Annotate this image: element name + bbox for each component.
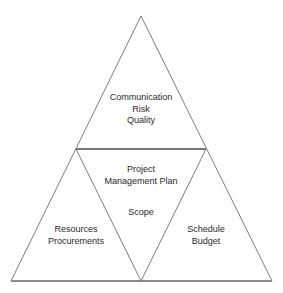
center-triangle-upper-label-line-2: Management Plan [104,176,177,188]
top-triangle-label-line-1: Communication [110,92,173,104]
right-triangle-label: Schedule Budget [187,224,225,247]
left-triangle-label-line-2: Procurements [48,236,104,248]
right-triangle-label-line-1: Schedule [187,224,225,236]
right-triangle-label-line-2: Budget [187,236,225,248]
center-triangle-lower-label: Scope [128,207,154,219]
center-triangle-upper-label-line-1: Project [104,164,177,176]
left-triangle-label: Resources Procurements [48,224,104,247]
triangle-diagram-graphic [0,0,283,293]
center-triangle-lower-label-line-1: Scope [128,207,154,219]
top-triangle-label-line-2: Risk [110,104,173,116]
left-triangle-label-line-1: Resources [48,224,104,236]
top-triangle-label: Communication Risk Quality [110,92,173,127]
diagram-canvas: Communication Risk Quality Project Manag… [0,0,283,293]
top-triangle-label-line-3: Quality [110,115,173,127]
center-triangle-upper-label: Project Management Plan [104,164,177,187]
